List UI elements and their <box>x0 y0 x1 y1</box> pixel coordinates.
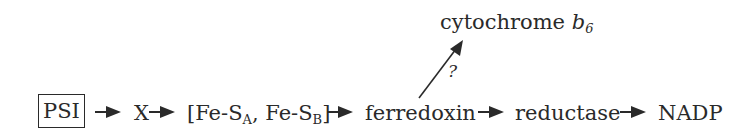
node-fes-cluster: [Fe-SA, Fe-SB] <box>187 103 330 126</box>
fes-sub-b: B <box>313 112 323 127</box>
node-nadp: NADP <box>658 103 723 124</box>
fes-sep: , Fe-S <box>252 101 313 125</box>
fes-open: [Fe-S <box>187 101 243 125</box>
node-ferredoxin: ferredoxin <box>365 103 476 124</box>
node-psi-label: PSI <box>43 101 80 122</box>
fes-sub-a: A <box>243 112 252 127</box>
node-reductase: reductase <box>515 103 620 124</box>
arrow-psi-to-x <box>95 106 121 118</box>
fes-close: ] <box>322 101 330 125</box>
arrow-reductase-to-nadp <box>620 106 646 118</box>
branch-question-label: ? <box>448 63 457 80</box>
arrow-x-to-fes <box>149 106 175 118</box>
cytochrome-b: b <box>572 10 585 34</box>
arrow-ferredoxin-to-reductase <box>478 106 504 118</box>
cytochrome-text: cytochrome <box>440 10 572 34</box>
node-psi: PSI <box>38 94 85 128</box>
arrow-fes-to-ferredoxin <box>327 106 353 118</box>
cytochrome-sub: 6 <box>585 21 593 36</box>
node-cytochrome-b6: cytochrome b6 <box>440 12 593 35</box>
node-x: X <box>134 103 149 124</box>
